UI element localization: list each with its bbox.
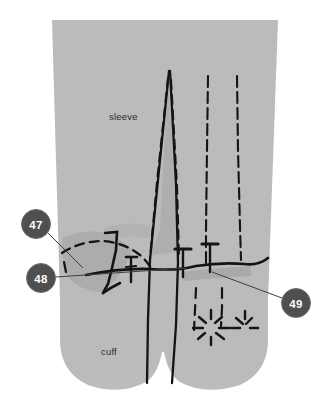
cuff-label: cuff bbox=[101, 346, 117, 357]
callout-47[interactable]: 47 bbox=[22, 210, 51, 239]
callout-48[interactable]: 48 bbox=[27, 264, 56, 293]
callout-49-number: 49 bbox=[289, 298, 302, 310]
garment-fabric-group bbox=[40, 20, 290, 390]
sewing-diagram-figure: sleeve cuff bbox=[0, 0, 327, 418]
callout-48-number: 48 bbox=[34, 273, 48, 285]
sleeve-label: sleeve bbox=[109, 111, 138, 122]
callout-49[interactable]: 49 bbox=[282, 289, 311, 318]
callout-47-number: 47 bbox=[29, 219, 42, 231]
diagram-canvas: sleeve cuff bbox=[0, 0, 327, 418]
